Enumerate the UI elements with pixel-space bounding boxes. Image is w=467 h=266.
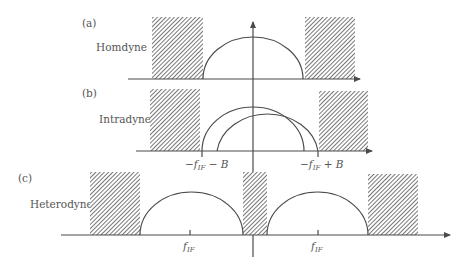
hatched-band-left: [152, 17, 203, 79]
panel-c-heterodyne: (c) Heterodyne fIF fIF: [18, 172, 450, 254]
spectrum-diagram: (a) Homdyne (b) Intradyne −fIF − B −fIF …: [0, 0, 467, 266]
hatched-band-left: [150, 89, 200, 151]
panel-a-homodyne: (a) Homdyne: [82, 17, 360, 79]
panel-a-tag: (a): [82, 17, 96, 29]
panel-c-name: Heterodyne: [30, 198, 93, 210]
tick-label-minus-fif-minus-b: −fIF − B: [185, 158, 229, 172]
signal-spectrum-arc-positive: [267, 192, 368, 235]
hatched-band-right: [368, 174, 418, 235]
panel-a-name: Homdyne: [96, 41, 147, 53]
panel-b-name: Intradyne: [99, 113, 151, 125]
tick-label-minus-fif-plus-b: −fIF + B: [300, 158, 344, 172]
hatched-band-left: [90, 172, 140, 235]
hatched-band-right: [305, 17, 355, 79]
signal-spectrum-arc-2: [217, 114, 318, 151]
panel-c-tag: (c): [18, 172, 32, 184]
tick-label-fif-left: fIF: [182, 240, 196, 254]
signal-spectrum-arc-negative: [140, 192, 243, 235]
hatched-band-right: [319, 91, 368, 151]
tick-label-fif-right: fIF: [310, 240, 324, 254]
panel-b-intradyne: (b) Intradyne −fIF − B −fIF + B: [82, 87, 372, 172]
hatched-band-center: [243, 172, 267, 235]
panel-b-tag: (b): [82, 87, 97, 99]
